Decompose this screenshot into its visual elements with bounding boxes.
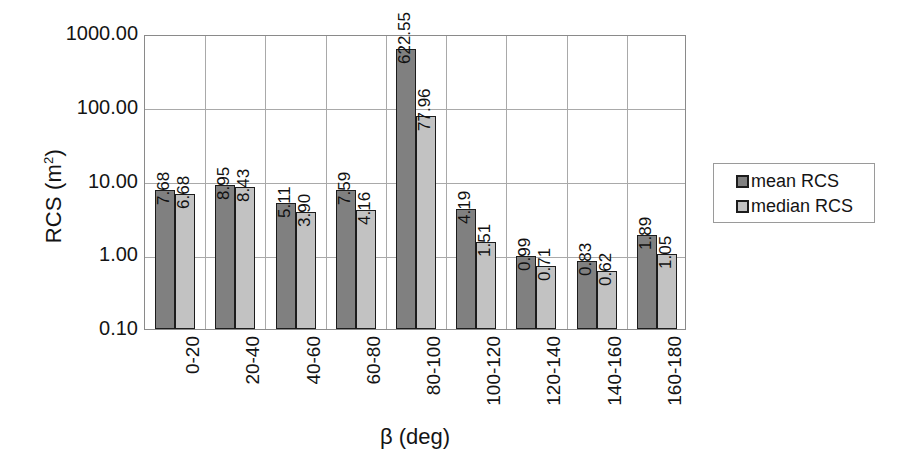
legend-swatch-median-icon <box>736 200 749 213</box>
y-axis-tick-labels: 1000.00100.0010.001.000.10 <box>14 0 138 458</box>
y-axis-tick-label: 0.10 <box>18 317 138 340</box>
x-axis-title: β (deg) <box>144 424 686 450</box>
gridline-x <box>265 36 266 329</box>
legend-item-mean-rcs[interactable]: mean RCS <box>736 171 839 192</box>
bar-value-label: 4.16 <box>356 191 373 224</box>
bar-median[interactable] <box>416 116 436 329</box>
legend: mean RCS median RCS <box>713 163 875 223</box>
bar-mean[interactable] <box>456 209 476 329</box>
bar-value-label: 7.59 <box>336 172 353 205</box>
legend-label-median: median RCS <box>751 196 853 217</box>
bar-value-label: 0.62 <box>597 252 614 285</box>
x-axis-tick-label: 160-180 <box>665 336 684 406</box>
x-axis-tick-labels: 0-2020-4040-6060-8080-100100-120120-1401… <box>144 330 686 430</box>
gridline-x <box>205 36 206 329</box>
x-axis-tick-label: 20-40 <box>243 336 262 385</box>
x-axis-tick-label: 0-20 <box>183 336 202 374</box>
x-axis-tick-label: 120-140 <box>544 336 563 406</box>
bar-value-label: 3.90 <box>296 194 313 227</box>
bar-value-label: 1.05 <box>657 236 674 269</box>
gridline-x <box>506 36 507 329</box>
legend-swatch-mean-icon <box>736 175 749 188</box>
bar-value-label: 1.51 <box>476 224 493 257</box>
chart-root: RCS (m2) 1000.00100.0010.001.000.10 7.68… <box>0 0 916 458</box>
legend-label-mean: mean RCS <box>751 171 839 192</box>
gridline-x <box>446 36 447 329</box>
bar-median[interactable] <box>175 194 195 329</box>
bar-value-label: 8.95 <box>215 167 232 200</box>
bar-value-label: 8.43 <box>235 169 252 202</box>
x-axis-tick-label: 100-120 <box>484 336 503 406</box>
x-axis-tick-label: 80-100 <box>424 336 443 395</box>
bar-value-label: 0.99 <box>516 237 533 270</box>
y-axis-tick-label: 10.00 <box>18 170 138 193</box>
bar-value-label: 1.89 <box>637 217 654 250</box>
bar-value-label: 6.68 <box>175 176 192 209</box>
legend-item-median-rcs[interactable]: median RCS <box>736 196 853 217</box>
bar-mean[interactable] <box>155 190 175 329</box>
x-axis-tick-label: 60-80 <box>364 336 383 385</box>
bar-value-label: 0.83 <box>577 243 594 276</box>
y-axis-tick-label: 100.00 <box>18 96 138 119</box>
y-axis-tick-label: 1000.00 <box>18 22 138 45</box>
gridline-x <box>326 36 327 329</box>
bar-value-label: 5.11 <box>276 186 293 218</box>
y-axis-tick-label: 1.00 <box>18 243 138 266</box>
bar-mean[interactable] <box>396 49 416 329</box>
x-axis-tick-label: 40-60 <box>304 336 323 385</box>
bar-value-label: 77.96 <box>416 88 433 131</box>
bar-value-label: 0.71 <box>536 248 553 281</box>
bar-median[interactable] <box>296 212 316 329</box>
gridline-x <box>567 36 568 329</box>
gridline-x <box>627 36 628 329</box>
bar-mean[interactable] <box>215 185 235 329</box>
bar-value-label: 4.19 <box>456 191 473 224</box>
gridline-x <box>386 36 387 329</box>
bar-mean[interactable] <box>336 190 356 329</box>
bar-median[interactable] <box>235 187 255 329</box>
bar-median[interactable] <box>356 210 376 329</box>
x-axis-tick-label: 140-160 <box>605 336 624 406</box>
plot-area: 7.686.688.958.435.113.907.594.16622.5577… <box>144 35 686 330</box>
bar-value-label: 7.68 <box>155 172 172 205</box>
bar-mean[interactable] <box>276 203 296 329</box>
bar-value-label: 622.55 <box>396 12 413 64</box>
